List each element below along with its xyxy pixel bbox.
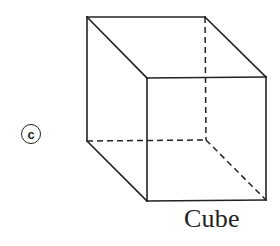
option-letter: c bbox=[27, 128, 34, 141]
edge-front_bottom_left-to-front_bottom_right bbox=[147, 200, 266, 201]
visible-edges bbox=[87, 17, 266, 201]
edge-back_bottom_left-to-front_bottom_left bbox=[87, 141, 147, 201]
edge-back_top_left-to-front_top_left bbox=[87, 17, 147, 78]
hidden-edge-back_top_right-to-back_bottom_right bbox=[205, 17, 206, 140]
option-c-badge: c bbox=[21, 124, 41, 144]
hidden-edge-back_bottom_right-to-front_bottom_right bbox=[206, 140, 266, 200]
edge-back_top_right-to-front_top_right bbox=[205, 17, 266, 77]
cube-figure: c Cube bbox=[0, 0, 280, 246]
edge-front_top_left-to-front_top_right bbox=[147, 77, 266, 78]
figure-caption: Cube bbox=[184, 206, 240, 232]
